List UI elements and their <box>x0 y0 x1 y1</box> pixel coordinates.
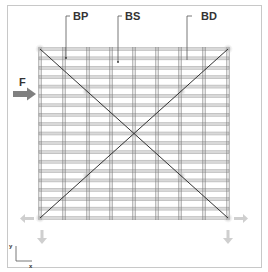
horizontal-bar <box>39 48 229 51</box>
horizontal-bar <box>39 76 229 79</box>
down-arrow-icon <box>223 230 233 244</box>
horizontal-bar <box>39 85 229 88</box>
label-bd-text: BD <box>201 10 217 22</box>
horizontal-bar <box>39 123 229 126</box>
horizontal-bar <box>39 141 229 144</box>
horizontal-bar <box>39 104 229 107</box>
label-bd: BD <box>187 10 217 60</box>
right-arrow-icon <box>234 214 248 223</box>
horizontal-bar <box>39 170 229 173</box>
horizontal-bar <box>39 160 229 163</box>
horizontal-bar <box>39 94 229 97</box>
axis-indicator: y x <box>9 243 33 269</box>
horizontal-bar <box>39 66 229 69</box>
right-arrow-icon <box>13 88 36 101</box>
label-bp: BP <box>65 10 88 59</box>
label-bs: BS <box>117 10 140 63</box>
force-label: F <box>19 76 26 88</box>
horizontal-bar <box>39 151 229 154</box>
axis-y-label: y <box>9 243 13 249</box>
axis-x-label: x <box>29 263 33 269</box>
label-bp-text: BP <box>73 10 88 22</box>
horizontal-bar <box>39 57 229 60</box>
down-arrow-icon <box>37 230 47 244</box>
label-bs-text: BS <box>125 10 140 22</box>
left-arrow-icon <box>20 214 34 223</box>
horizontal-bar <box>39 217 229 220</box>
horizontal-bar <box>39 198 229 201</box>
horizontal-bar <box>39 207 229 210</box>
horizontal-bar <box>39 188 229 191</box>
horizontal-bar <box>39 179 229 182</box>
bracing-diagram: BP BS BD F y x <box>0 0 268 272</box>
horizontal-bar <box>39 113 229 116</box>
